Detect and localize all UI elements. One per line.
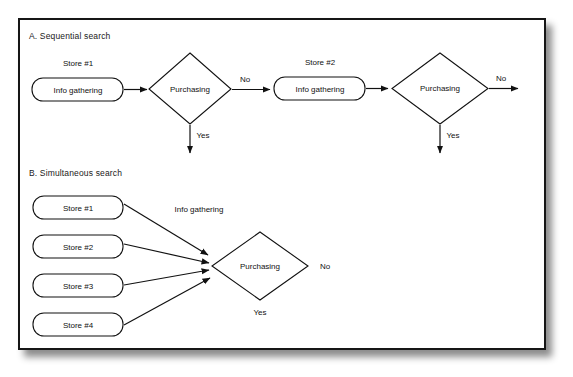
node-label-info-gathering-1: Info gathering — [54, 86, 103, 95]
node-label-purchasing-2: Purchasing — [420, 84, 460, 93]
edge-label-no-3: No — [320, 262, 330, 271]
edge-label-no-2: No — [496, 74, 506, 83]
node-label-store-2: Store #2 — [63, 243, 93, 252]
edge-label-no-1: No — [240, 75, 250, 84]
node-label-store-1: Store #1 — [63, 204, 93, 213]
node-label-purchasing-1: Purchasing — [170, 85, 210, 94]
node-label-store-4: Store #4 — [63, 321, 93, 330]
figure-canvas: A. Sequential search Store #1 Info gathe… — [0, 0, 573, 377]
section-title-sequential: A. Sequential search — [29, 31, 110, 41]
edge-label-yes-2: Yes — [446, 131, 459, 140]
connector-store3-to-decision — [124, 270, 209, 285]
edge-label-yes-3: Yes — [253, 308, 266, 317]
node-label-info-gathering-2: Info gathering — [296, 85, 345, 94]
node-label-purchasing-3: Purchasing — [240, 262, 280, 271]
connector-store2-to-decision — [124, 244, 209, 263]
edge-label-yes-1: Yes — [196, 131, 209, 140]
connector-store4-to-decision — [124, 278, 210, 325]
store-caption-a1: Store #1 — [63, 59, 93, 68]
section-title-simultaneous: B. Simultaneous search — [29, 168, 122, 178]
node-label-store-3: Store #3 — [63, 282, 93, 291]
store-caption-a2: Store #2 — [305, 58, 335, 67]
edge-label-info-gathering-b: Info gathering — [175, 205, 224, 214]
